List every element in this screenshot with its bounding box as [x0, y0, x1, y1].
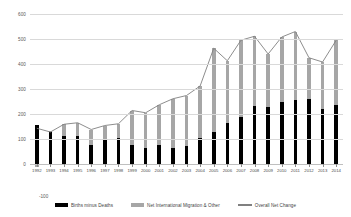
x-axis-tick-label: 2013 — [318, 168, 327, 173]
x-axis-tick — [200, 164, 201, 167]
y-axis-tick-label: 0 — [8, 162, 26, 167]
legend-swatch-bar-icon — [131, 203, 144, 207]
x-axis-tick — [146, 164, 147, 167]
gridline — [30, 39, 343, 40]
x-axis-tick — [50, 164, 51, 167]
overall-net-change-line — [37, 32, 336, 133]
x-axis-tick — [282, 164, 283, 167]
x-axis-tick-label: 2010 — [277, 168, 286, 173]
x-axis-tick — [159, 164, 160, 167]
x-axis-tick — [132, 164, 133, 167]
y-axis-tick-label: 200 — [8, 112, 26, 117]
x-axis-tick-label: 2011 — [291, 168, 300, 173]
x-axis-tick — [187, 164, 188, 167]
x-axis-tick-label: 2005 — [209, 168, 218, 173]
y-axis-tick-label: 100 — [8, 137, 26, 142]
x-axis-tick-label: 1996 — [87, 168, 96, 173]
x-axis-tick-label: 2007 — [236, 168, 245, 173]
x-axis-tick — [91, 164, 92, 167]
x-axis-tick-label: 2006 — [223, 168, 232, 173]
legend-item-overall-net-change[interactable]: Overall Net Change — [238, 203, 296, 208]
gridline — [30, 89, 343, 90]
x-axis-tick — [309, 164, 310, 167]
x-axis-tick-label: 1992 — [32, 168, 41, 173]
x-axis-tick-label: 2012 — [304, 168, 313, 173]
x-axis-tick-label: 1994 — [59, 168, 68, 173]
x-axis-tick-label: 2002 — [168, 168, 177, 173]
legend-label-births-minus-deaths: Births minus Deaths — [71, 203, 113, 208]
x-axis-tick — [37, 164, 38, 167]
y-axis-tick-label: 300 — [8, 87, 26, 92]
x-axis-tick — [241, 164, 242, 167]
x-axis-tick-label: 2009 — [263, 168, 272, 173]
y-axis-tick-label: 500 — [8, 37, 26, 42]
legend-swatch-bar-icon — [55, 203, 68, 207]
x-axis-tick-label: 2008 — [250, 168, 259, 173]
gridline — [30, 139, 343, 140]
x-axis-tick-label: 2004 — [195, 168, 204, 173]
x-axis-tick — [268, 164, 269, 167]
x-axis-tick — [105, 164, 106, 167]
chart-legend: Births minus Deaths Net International Mi… — [0, 198, 351, 212]
x-axis-tick — [118, 164, 119, 167]
x-axis-tick-label: 1993 — [46, 168, 55, 173]
x-axis-tick — [323, 164, 324, 167]
legend-swatch-line-icon — [238, 204, 252, 205]
x-axis-tick-label: 2000 — [141, 168, 150, 173]
x-axis-tick-label: 1995 — [73, 168, 82, 173]
x-axis-tick — [78, 164, 79, 167]
x-axis-tick — [336, 164, 337, 167]
x-axis-tick-label: 2014 — [332, 168, 341, 173]
x-axis-tick — [173, 164, 174, 167]
gridline — [30, 64, 343, 65]
x-axis-tick — [227, 164, 228, 167]
legend-label-overall-net-change: Overall Net Change — [255, 203, 296, 208]
x-axis-tick-label: 2001 — [155, 168, 164, 173]
x-axis-tick — [64, 164, 65, 167]
y-axis-tick-label: 600 — [8, 12, 26, 17]
x-axis-tick-label: 1999 — [127, 168, 136, 173]
legend-label-net-international-migration: Net International Migration & Other — [147, 203, 220, 208]
x-axis-tick — [214, 164, 215, 167]
x-axis-tick — [295, 164, 296, 167]
gridline — [30, 14, 343, 15]
legend-item-births-minus-deaths[interactable]: Births minus Deaths — [55, 203, 113, 208]
y-axis-tick-label: 400 — [8, 62, 26, 67]
x-axis-tick-label: 1997 — [100, 168, 109, 173]
x-axis-tick-label: 2003 — [182, 168, 191, 173]
chart-container: 6005004003002001000-10019921993199419951… — [0, 0, 351, 217]
x-axis-tick — [255, 164, 256, 167]
legend-item-net-international-migration[interactable]: Net International Migration & Other — [131, 203, 220, 208]
x-axis-tick-label: 1998 — [114, 168, 123, 173]
gridline — [30, 114, 343, 115]
plot-area: 6005004003002001000-10019921993199419951… — [30, 14, 343, 164]
